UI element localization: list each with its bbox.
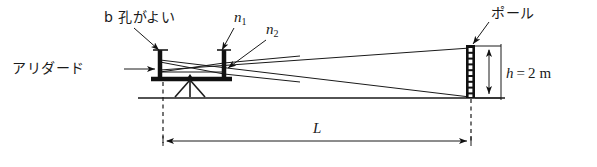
pole-graduation [469,54,473,58]
canvas-background [0,0,597,167]
hole-b-label: b 孔がよい [104,9,175,25]
distance-label: L [312,120,321,136]
pole-graduation [469,65,473,69]
surveying-diagram: h=2m L b 孔がよい n1 n2 アリダード ポール [0,0,597,167]
pole-graduation [469,60,473,64]
pole-graduation [469,77,473,81]
pole-staff [466,45,475,98]
pole-label: ポール [491,5,535,21]
pole-graduation [469,71,473,75]
alidade-label: アリダード [12,60,85,76]
pole-graduation [469,83,473,87]
pole-graduation [469,48,473,52]
pole-graduation [469,89,473,93]
height-label: h=2m [506,65,551,81]
pole-graduation [469,94,473,97]
